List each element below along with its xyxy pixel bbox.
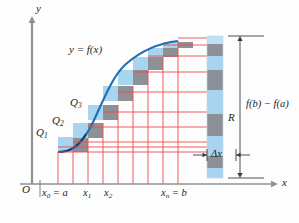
xn-suffix: = b — [169, 187, 187, 198]
q3-sub: 3 — [78, 101, 82, 110]
q3-base: Q — [70, 96, 78, 108]
q1-base: Q — [36, 126, 44, 138]
point-label-q1: Q1 — [36, 126, 48, 140]
point-label-q3: Q3 — [70, 96, 82, 110]
height-bracket-label: f(b) − f(a) — [246, 98, 289, 109]
origin-label: O — [22, 183, 30, 195]
x-tick-label-x0: x0 = a — [42, 187, 68, 200]
x1-sub: 1 — [88, 192, 92, 200]
y-axis-label: y — [36, 2, 41, 14]
delta-x-label: Δx — [211, 148, 222, 159]
curve-label: y = f(x) — [69, 43, 102, 55]
y-axis-arrowhead — [29, 16, 36, 23]
q1-sub: 1 — [44, 131, 48, 140]
x-tick-label-x1: x1 — [83, 187, 91, 200]
x0-suffix: = a — [50, 187, 68, 198]
axes — [20, 16, 278, 197]
x-tick-label-x2: x2 — [104, 187, 112, 200]
x-axis-label: x — [282, 176, 287, 188]
x-tick-label-xn: xn = b — [161, 187, 187, 200]
region-label-R: R — [228, 111, 235, 123]
point-label-q2: Q2 — [52, 114, 64, 128]
figure-canvas: y x O y = f(x) Q1 Q2 Q3 x0 = a x1 x2 xn … — [0, 0, 299, 223]
x-axis-arrowhead — [271, 181, 278, 187]
x2-sub: 2 — [109, 192, 113, 200]
q2-base: Q — [52, 114, 60, 126]
q2-sub: 2 — [60, 119, 64, 128]
